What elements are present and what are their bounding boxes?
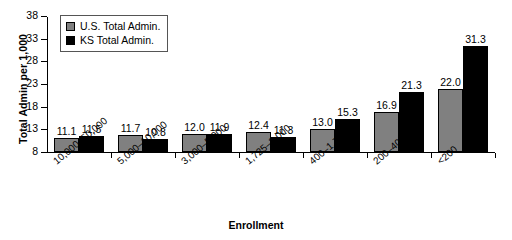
- y-tick: 13: [41, 129, 47, 130]
- bar-ks: [463, 46, 488, 152]
- y-tick: 8: [41, 152, 47, 153]
- x-tick: [303, 153, 304, 158]
- x-tick: [367, 153, 368, 158]
- legend-item-ks: KS Total Admin.: [66, 33, 160, 47]
- x-axis-line: [47, 152, 495, 153]
- legend-swatch-ks-icon: [66, 36, 75, 45]
- y-tick-label: 13: [26, 122, 38, 134]
- x-tick: [239, 153, 240, 158]
- y-tick-label: 8: [32, 145, 38, 157]
- bar-value-label: 15.3: [331, 106, 364, 118]
- legend-label-us: U.S. Total Admin.: [80, 20, 160, 32]
- bar-us: [438, 89, 463, 152]
- x-tick: [495, 153, 496, 158]
- y-tick: 23: [41, 84, 47, 85]
- bar-value-label: 21.3: [395, 79, 428, 91]
- legend: U.S. Total Admin. KS Total Admin.: [60, 15, 168, 52]
- y-tick-label: 23: [26, 77, 38, 89]
- y-tick-label: 38: [26, 9, 38, 21]
- y-tick-label: 33: [26, 32, 38, 44]
- y-tick: 38: [41, 16, 47, 17]
- legend-label-ks: KS Total Admin.: [80, 34, 154, 46]
- y-tick-label: 28: [26, 54, 38, 66]
- y-tick: 28: [41, 61, 47, 62]
- y-axis-line: [47, 17, 48, 153]
- bar-value-label: 31.3: [459, 33, 492, 45]
- x-axis-title: Enrollment: [0, 219, 512, 231]
- bar-chart: Total Admin per 1,000 8131823283338 11.1…: [0, 0, 512, 240]
- x-tick: [175, 153, 176, 158]
- legend-swatch-us-icon: [66, 22, 75, 31]
- x-tick: [431, 153, 432, 158]
- y-tick: 33: [41, 39, 47, 40]
- y-tick: 18: [41, 107, 47, 108]
- x-tick: [111, 153, 112, 158]
- legend-item-us: U.S. Total Admin.: [66, 19, 160, 33]
- y-tick-label: 18: [26, 100, 38, 112]
